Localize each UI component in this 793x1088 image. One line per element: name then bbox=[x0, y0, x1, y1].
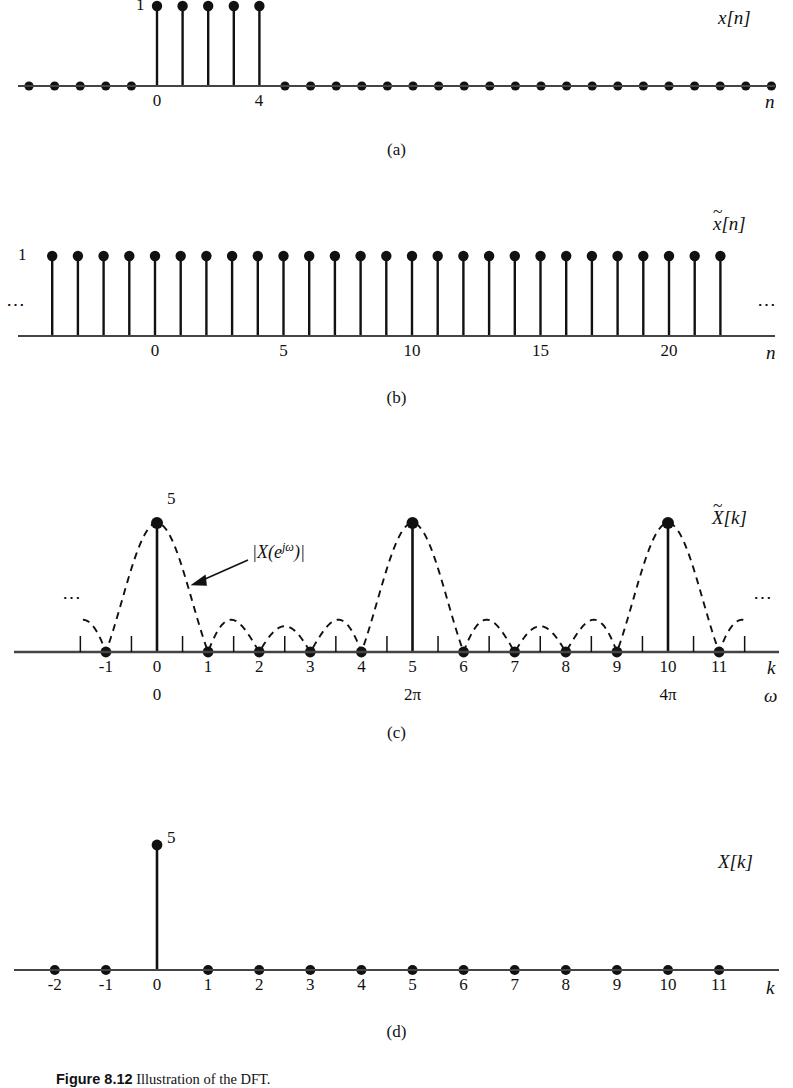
panel-c-k-tick--1: -1 bbox=[99, 658, 113, 675]
subcaption-d: (d) bbox=[0, 1022, 793, 1042]
panel-c-axis-label-k: k bbox=[767, 658, 775, 677]
subcaption-b: (b) bbox=[0, 388, 793, 408]
panel-d-k-tick-9: 9 bbox=[613, 976, 622, 993]
panel-c-k-tick-2: 2 bbox=[255, 658, 264, 675]
panel-c-k-tick-5: 5 bbox=[408, 658, 417, 675]
panel-c-k-tick-0: 0 bbox=[153, 658, 162, 675]
panel-d-k-tick-3: 3 bbox=[306, 976, 315, 993]
subcaption-a: (a) bbox=[0, 140, 793, 160]
panel-b-signal-index: n bbox=[729, 213, 739, 234]
panel-d-k-tick-4: 4 bbox=[357, 976, 366, 993]
panel-d-k-tick--2: -2 bbox=[48, 976, 62, 993]
panel-b-signal-label: ~x[n] bbox=[713, 214, 746, 233]
panel-a-tick-0: 0 bbox=[153, 92, 162, 109]
figure-caption-text: Illustration of the DFT. bbox=[136, 1071, 270, 1087]
panel-b-tick-10: 10 bbox=[404, 342, 421, 359]
panel-c-k-tick-1: 1 bbox=[204, 658, 213, 675]
panel-b-tick-20: 20 bbox=[661, 342, 678, 359]
panel-c-k-tick-3: 3 bbox=[306, 658, 315, 675]
panel-b-axis-label: n bbox=[766, 343, 776, 362]
panel-b-amplitude-label: 1 bbox=[18, 246, 27, 263]
panel-b-tilde-group: ~x bbox=[713, 214, 721, 233]
panel-d-k-tick-0: 0 bbox=[153, 976, 162, 993]
panel-a-axis-label: n bbox=[765, 92, 775, 111]
panel-d: 5 X[k] -2-101234567891011 k (d) bbox=[0, 790, 793, 1060]
panel-d-k-tick-5: 5 bbox=[408, 976, 417, 993]
panel-b-tick-5: 5 bbox=[279, 342, 288, 359]
panel-c-omega-tick-10: 4π bbox=[659, 686, 676, 703]
panel-c-amplitude-label: 5 bbox=[167, 490, 176, 507]
panel-d-k-tick-8: 8 bbox=[562, 976, 571, 993]
tilde-glyph: ~ bbox=[713, 203, 721, 220]
panel-b-tick-15: 15 bbox=[532, 342, 549, 359]
panel-b-tick-0: 0 bbox=[151, 342, 160, 359]
panel-a-plot bbox=[0, 0, 793, 120]
panel-c: 5 ⋯ ⋯ |X(ejω)| ~X[k] -101234567891011 02… bbox=[0, 460, 793, 750]
figure-caption-label: Figure 8.12 bbox=[56, 1071, 133, 1087]
panel-a-signal-label: x[n] bbox=[718, 8, 751, 27]
panel-d-k-tick-6: 6 bbox=[459, 976, 468, 993]
panel-d-signal-label: X[k] bbox=[718, 852, 753, 871]
panel-c-signal-label: ~X[k] bbox=[712, 508, 747, 527]
panel-c-k-tick-8: 8 bbox=[562, 658, 571, 675]
panel-c-k-tick-10: 10 bbox=[660, 658, 677, 675]
panel-d-k-tick-1: 1 bbox=[204, 976, 213, 993]
envelope-label-post: )| bbox=[294, 542, 305, 562]
panel-a-amplitude-label: 1 bbox=[136, 0, 145, 13]
panel-c-omega-tick-5: 2π bbox=[404, 686, 421, 703]
panel-c-right-ellipsis: ⋯ bbox=[753, 588, 774, 607]
panel-c-k-tick-7: 7 bbox=[510, 658, 519, 675]
panel-d-k-tick--1: -1 bbox=[99, 976, 113, 993]
panel-d-k-tick-11: 11 bbox=[711, 976, 727, 993]
panel-d-k-tick-7: 7 bbox=[510, 976, 519, 993]
panel-c-k-tick-9: 9 bbox=[613, 658, 622, 675]
panel-a: 1 0 4 x[n] n (a) bbox=[0, 0, 793, 170]
panel-c-left-ellipsis: ⋯ bbox=[62, 588, 83, 607]
panel-c-envelope-label: |X(ejω)| bbox=[252, 541, 305, 561]
tilde-glyph: ~ bbox=[712, 497, 724, 514]
panel-b-plot bbox=[0, 210, 793, 360]
subcaption-c: (c) bbox=[0, 723, 793, 743]
panel-c-k-tick-4: 4 bbox=[357, 658, 366, 675]
panel-d-k-tick-2: 2 bbox=[255, 976, 264, 993]
panel-d-axis-label: k bbox=[766, 978, 774, 997]
envelope-label-exponent: jω bbox=[282, 540, 294, 554]
panel-c-tilde-group: ~X bbox=[712, 508, 724, 527]
envelope-label-pre: |X(e bbox=[252, 542, 282, 562]
panel-d-k-tick-10: 10 bbox=[660, 976, 677, 993]
panel-d-amplitude-label: 5 bbox=[167, 829, 176, 846]
panel-c-signal-index: k bbox=[731, 507, 739, 528]
panel-b: 1 ⋯ ⋯ ~x[n] n 05101520 (b) bbox=[0, 210, 793, 410]
panel-b-left-ellipsis: ⋯ bbox=[6, 295, 27, 314]
panel-c-axis-label-omega: ω bbox=[764, 686, 777, 705]
figure-caption: Figure 8.12 Illustration of the DFT. bbox=[56, 1070, 756, 1088]
panel-b-right-ellipsis: ⋯ bbox=[757, 295, 778, 314]
panel-d-plot bbox=[0, 790, 793, 1000]
panel-c-omega-tick-0: 0 bbox=[153, 686, 162, 703]
panel-c-k-tick-11: 11 bbox=[711, 658, 727, 675]
panel-c-plot bbox=[0, 460, 793, 670]
panel-a-tick-4: 4 bbox=[255, 92, 264, 109]
panel-c-k-tick-6: 6 bbox=[459, 658, 468, 675]
